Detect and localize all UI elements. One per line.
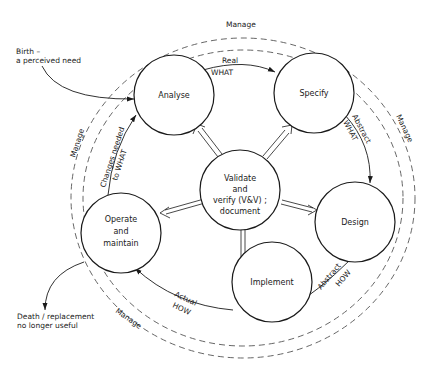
svg-text:maintain: maintain — [103, 239, 138, 248]
manage-label-right: Manage — [394, 113, 415, 144]
svg-text:Operate: Operate — [105, 215, 138, 224]
node-analyse: Analyse — [134, 55, 214, 135]
edge-label-abstract-how: Abstract HOW — [316, 261, 353, 291]
svg-text:Real: Real — [222, 56, 238, 65]
birth-label: Birth – a perceived need — [16, 47, 81, 65]
svg-text:Birth –: Birth – — [16, 47, 40, 56]
svg-text:WHAT: WHAT — [211, 68, 234, 77]
svg-text:and: and — [232, 185, 247, 194]
manage-label-top: Manage — [226, 20, 256, 29]
manage-label-bottom: Manage — [114, 306, 144, 331]
death-label: Death / replacement no longer useful — [17, 312, 94, 330]
svg-text:Death / replacement: Death / replacement — [17, 312, 94, 321]
node-design: Design — [315, 182, 395, 262]
svg-text:a perceived need: a perceived need — [16, 56, 81, 65]
svg-text:Design: Design — [341, 218, 369, 227]
node-validate-verify: Validate and verify (V&V) ; document — [200, 150, 280, 230]
svg-text:Implement: Implement — [250, 278, 293, 287]
svg-text:and: and — [113, 227, 128, 236]
svg-text:Validate: Validate — [224, 174, 256, 183]
svg-text:Analyse: Analyse — [158, 91, 190, 100]
edge-label-actual-how: Actual HOW — [171, 290, 198, 317]
manage-label-left: Manage — [68, 127, 86, 158]
node-specify: Specify — [274, 53, 354, 133]
edge-label-real-what: Real WHAT — [211, 56, 238, 77]
svg-text:document: document — [220, 207, 260, 216]
svg-text:no longer useful: no longer useful — [17, 321, 78, 330]
svg-text:verify (V&V) ;: verify (V&V) ; — [213, 196, 267, 205]
node-operate-maintain: Operate and maintain — [81, 193, 161, 273]
lifecycle-diagram: Manage Manage Manage Manage — [0, 0, 435, 384]
node-implement: Implement — [232, 242, 312, 322]
svg-text:Specify: Specify — [299, 89, 328, 98]
